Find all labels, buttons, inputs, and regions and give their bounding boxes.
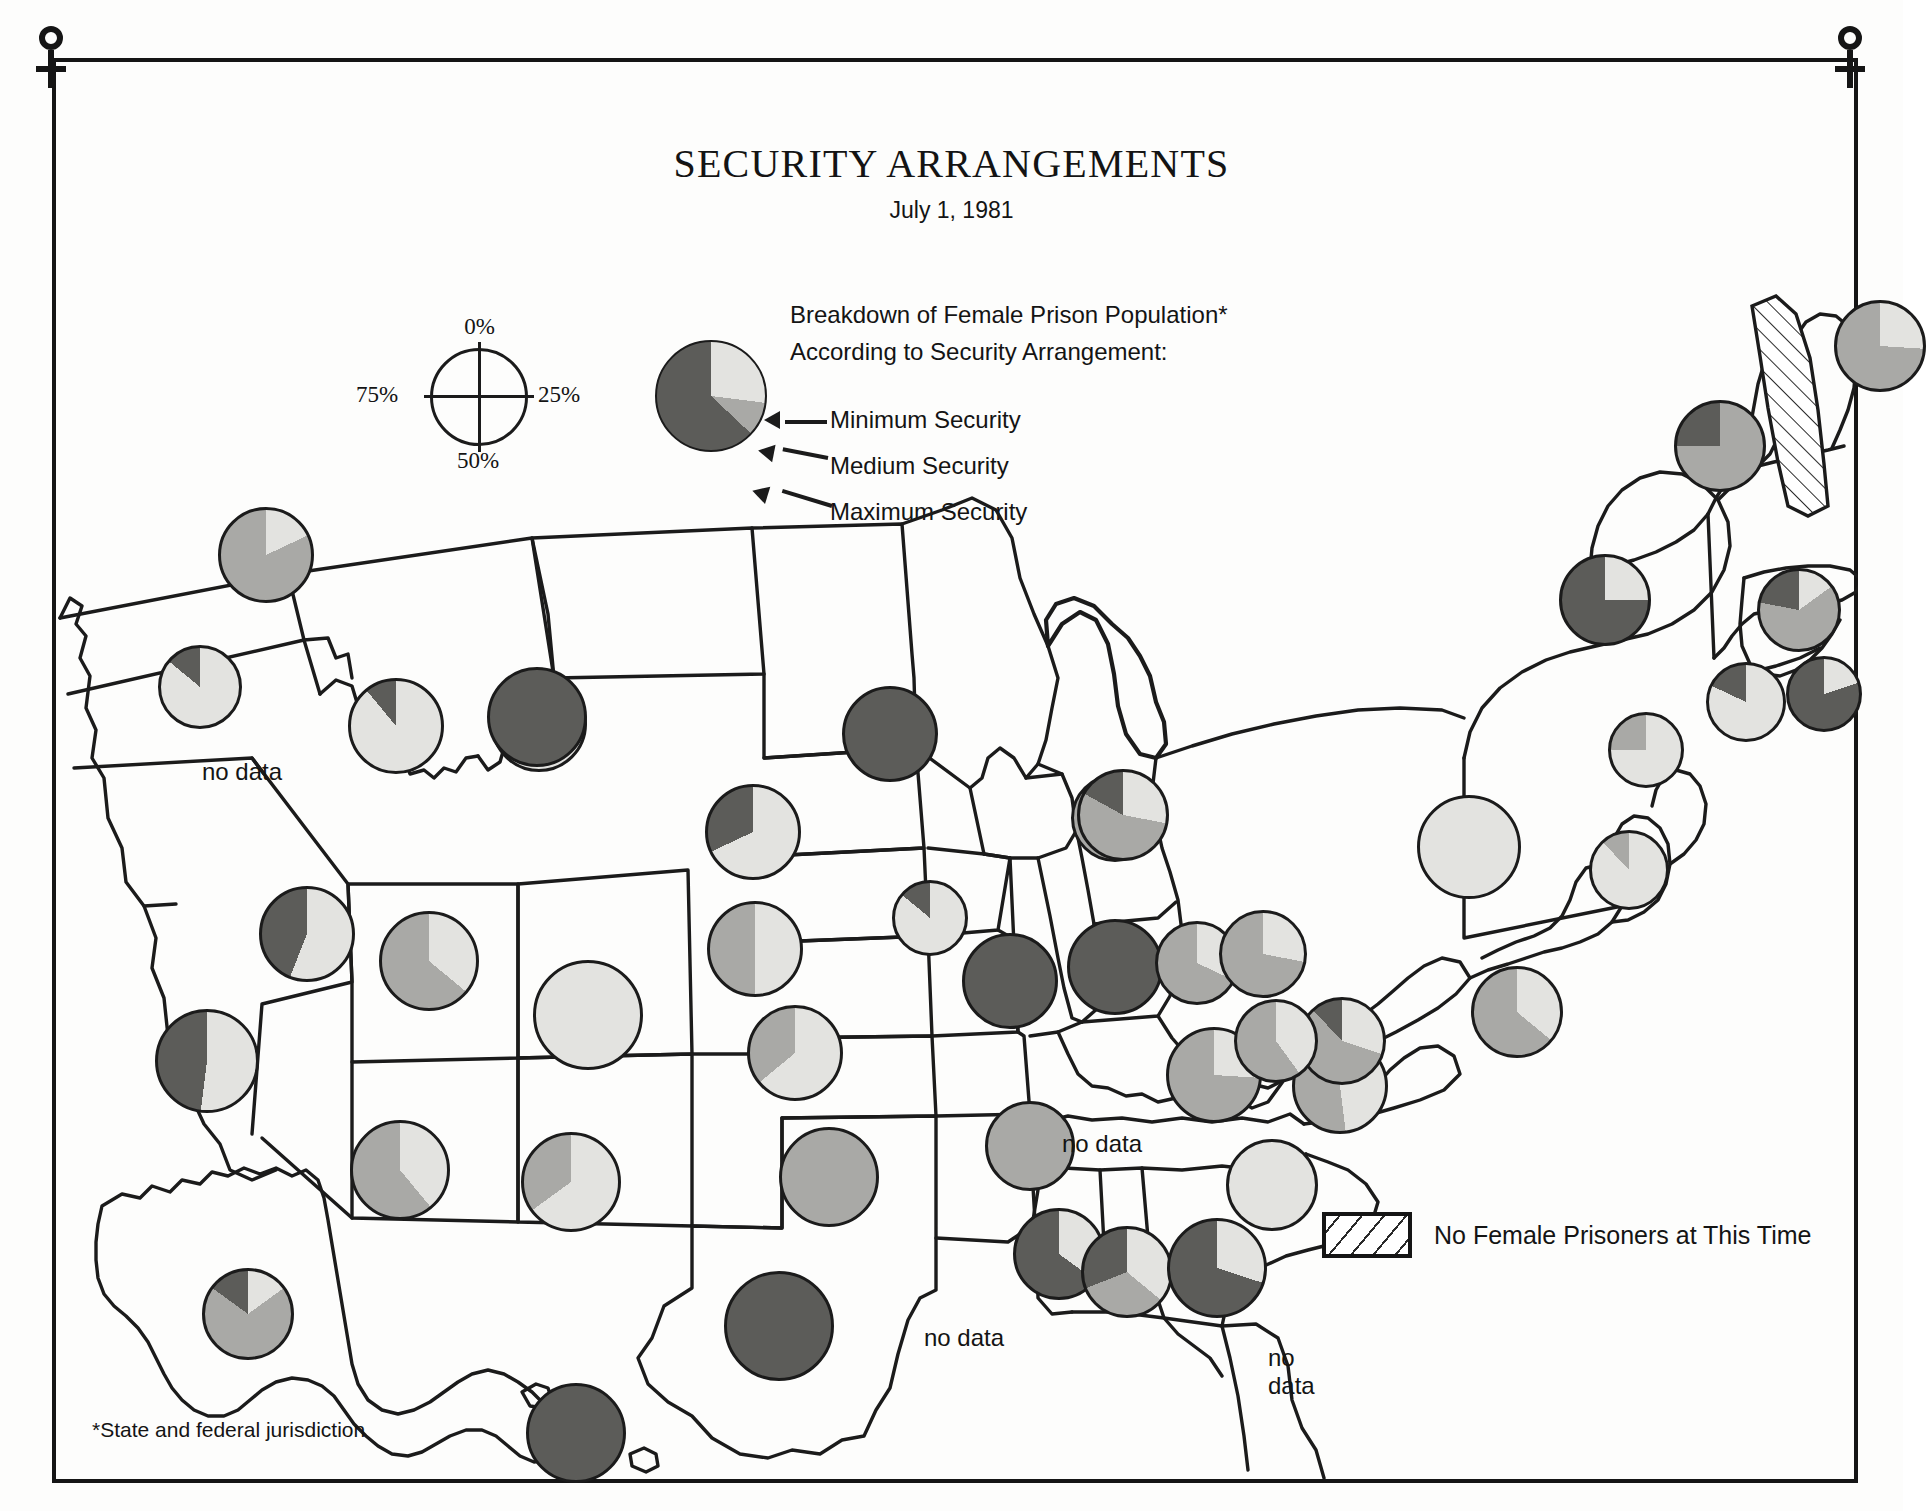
state-pie-sd xyxy=(705,784,801,880)
state-no-prisoners-new-hampshire xyxy=(1752,296,1828,516)
state-pie-ca xyxy=(155,1009,259,1113)
state-pie-co xyxy=(533,960,643,1070)
state-pie-de xyxy=(1589,830,1669,910)
state-pie-wa xyxy=(218,507,314,603)
state-pie-ut xyxy=(379,911,479,1011)
state-pie-az xyxy=(350,1120,450,1220)
no-data-label-montana: no data xyxy=(202,758,282,786)
no-data-label-tennessee: no data xyxy=(1062,1130,1142,1158)
no-data-label-florida: no data xyxy=(1268,1344,1315,1400)
state-pie-wv xyxy=(1234,999,1318,1083)
state-pie-ia xyxy=(892,880,968,956)
state-pie-oh xyxy=(1219,910,1307,998)
state-pie-nm xyxy=(521,1132,621,1232)
state-pie-ny xyxy=(1559,554,1651,646)
state-pie-il xyxy=(1067,919,1163,1015)
state-pie-pa xyxy=(1417,795,1521,899)
state-pie-hi xyxy=(526,1383,626,1483)
no-data-label-louisiana: no data xyxy=(924,1324,1004,1352)
state-pie-sc xyxy=(1226,1139,1318,1231)
state-pie-al xyxy=(1081,1226,1173,1318)
state-pie-id xyxy=(348,678,444,774)
state-pie-ct xyxy=(1706,662,1786,742)
state-pie-ga xyxy=(1167,1218,1267,1318)
state-pie-ma xyxy=(1757,568,1841,652)
state-pie-nj xyxy=(1608,712,1684,788)
footnote: *State and federal jurisdiction xyxy=(92,1418,365,1442)
us-map-outline xyxy=(52,58,1858,1483)
no-prisoners-legend-label: No Female Prisoners at This Time xyxy=(1434,1221,1811,1250)
state-pie-ak xyxy=(202,1268,294,1360)
state-pie-nd xyxy=(487,667,587,767)
state-pie-md xyxy=(1471,966,1563,1058)
no-prisoners-legend: No Female Prisoners at This Time xyxy=(1322,1212,1811,1258)
state-pie-ks xyxy=(747,1005,843,1101)
state-pie-ne xyxy=(707,901,803,997)
state-pie-ri xyxy=(1786,656,1862,732)
state-pie-nv xyxy=(259,886,355,982)
state-pie-mn xyxy=(842,686,938,782)
state-pie-mi xyxy=(1077,769,1169,861)
state-pie-or xyxy=(158,645,242,729)
no-prisoners-swatch-icon xyxy=(1322,1212,1412,1258)
state-pie-ok xyxy=(779,1127,879,1227)
state-pie-tx xyxy=(724,1271,834,1381)
state-pie-me xyxy=(1834,300,1926,392)
state-pie-mo xyxy=(962,933,1058,1029)
state-pie-vt xyxy=(1674,400,1766,492)
